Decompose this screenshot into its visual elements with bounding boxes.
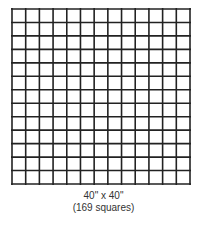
dimensions-label: 40" x 40" — [0, 190, 207, 202]
square-grid — [11, 8, 191, 185]
grid-lines — [11, 8, 191, 185]
square-count-label: (169 squares) — [0, 202, 207, 214]
